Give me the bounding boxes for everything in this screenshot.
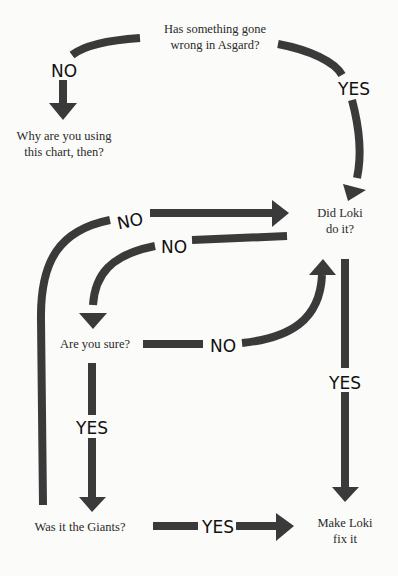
arrow-head [343,184,366,201]
node-sure: Are you sure? [55,336,135,352]
node-fix: Make Loki fix it [310,515,380,547]
node-text: wrong in Asgard? [155,37,275,53]
edge-label-yes: YES [328,373,361,393]
node-text: Has something gone [155,21,275,37]
node-giants: Was it the Giants? [25,519,135,535]
arrow-shaft [278,44,342,75]
arrow-shaft [352,100,360,178]
node-text: this chart, then? [12,144,116,160]
node-why: Why are you using this chart, then? [12,128,116,160]
arrow-head [49,103,77,120]
node-text: Why are you using [12,128,116,144]
arrow-head [272,200,289,227]
node-text: do it? [305,221,375,237]
edge-label-yes: YES [201,517,234,537]
edge-label-no: NO [51,61,77,81]
edge-label-yes: YES [337,79,370,99]
node-text: Are you sure? [55,336,135,352]
arrow-shaft [242,275,322,343]
node-loki: Did Loki do it? [305,205,375,237]
edge-start-to-why: NO [49,38,140,120]
arrow-head [332,487,359,502]
arrow-head [276,513,294,541]
node-text: Was it the Giants? [25,519,135,535]
arrow-head [309,259,336,275]
arrow-shaft [93,246,155,305]
edge-loki-to-sure: NO [79,236,287,329]
node-start: Has something gone wrong in Asgard? [155,21,275,53]
edge-label-no: NO [161,237,187,257]
edge-label-yes: YES [75,418,108,438]
arrow-shaft [72,38,140,55]
edge-loki-to-fix: YES [328,259,361,502]
edge-label-no: NO [210,336,236,356]
edge-giants-to-fix: YES [153,513,294,541]
arrow-head [79,497,106,512]
edge-sure-to-loki: NO [143,259,336,356]
flowchart: NO YES NO NO NO YES YES [0,0,398,576]
node-text: Make Loki [310,515,380,531]
node-text: fix it [310,531,380,547]
arrow-shaft [41,220,110,505]
edge-sure-to-giants: YES [75,363,108,512]
arrow-head [79,313,107,329]
edge-start-to-loki: YES [278,44,370,201]
edge-label-no: NO [115,209,145,234]
arrow-shaft [192,236,287,240]
node-text: Did Loki [305,205,375,221]
